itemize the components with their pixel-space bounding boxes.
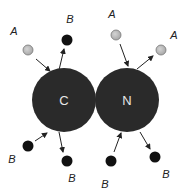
- particle-label: A: [107, 8, 115, 20]
- particle-a: [111, 30, 121, 40]
- particle-label: A: [9, 25, 17, 37]
- arrow-icon: [36, 59, 50, 71]
- arrow-icon: [140, 132, 150, 149]
- particle-label: B: [8, 153, 15, 165]
- arrow-icon: [137, 56, 153, 69]
- arrow-icon: [59, 49, 64, 70]
- atom-label: C: [59, 93, 68, 108]
- particle-label: B: [68, 172, 75, 184]
- particle-label: B: [101, 178, 108, 190]
- particle-label: A: [169, 29, 177, 41]
- particle-b: [23, 141, 34, 152]
- exchange-diagram: CN ABAABBBB: [0, 0, 188, 195]
- particle-label: B: [162, 168, 169, 180]
- particle-b: [62, 156, 73, 167]
- particle-b: [62, 35, 73, 46]
- arrow-icon: [35, 133, 47, 141]
- particle-label: B: [66, 13, 73, 25]
- arrow-icon: [59, 132, 63, 152]
- atoms-layer: CN: [32, 68, 159, 132]
- particle-a: [156, 45, 166, 55]
- particle-a: [23, 45, 33, 55]
- atom-label: N: [122, 93, 131, 108]
- arrow-icon: [120, 44, 128, 66]
- arrow-icon: [114, 133, 121, 152]
- particle-b: [150, 152, 161, 163]
- particle-b: [106, 156, 117, 167]
